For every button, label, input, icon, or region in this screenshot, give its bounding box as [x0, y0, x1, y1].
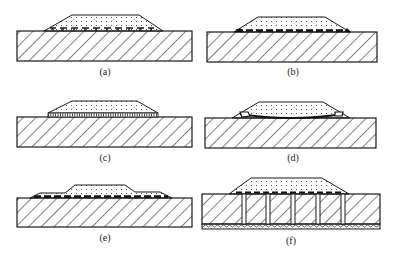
panel-a [17, 15, 192, 61]
chip [48, 101, 158, 113]
panel-b [207, 17, 377, 62]
panel-label-b: (b) [287, 66, 299, 77]
porous-base-layer [202, 224, 380, 229]
figure-canvas [0, 0, 393, 257]
panel-e [17, 185, 192, 227]
panel-label-d: (d) [287, 152, 299, 163]
substrate [17, 117, 192, 147]
substrate [207, 32, 377, 62]
substrate [205, 118, 376, 148]
panel-label-c: (c) [99, 152, 110, 163]
panel-label-e: (e) [99, 232, 110, 243]
interface-layer [48, 113, 158, 117]
panel-f [202, 178, 380, 229]
void-right [335, 112, 343, 116]
panel-label-f: (f) [286, 235, 296, 246]
void-left [240, 112, 250, 117]
substrate [17, 31, 192, 61]
panel-d [205, 102, 376, 148]
substrate [17, 198, 192, 227]
panel-c [17, 101, 192, 147]
panel-label-a: (a) [99, 66, 110, 77]
